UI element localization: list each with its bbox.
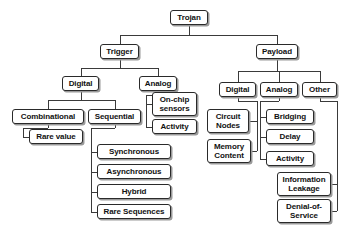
node-label-pay-digital: Digital xyxy=(222,85,253,95)
node-sequential: Sequential xyxy=(88,109,141,124)
node-trig-digital: Digital xyxy=(62,76,99,91)
node-label-pay-analog: Analog xyxy=(263,85,295,95)
node-label-trig-digital: Digital xyxy=(65,79,96,89)
node-label-pay-activity: Activity xyxy=(269,154,311,164)
node-onchip: On-chip sensors xyxy=(152,92,197,116)
node-combinational: Combinational xyxy=(12,109,84,124)
node-hybrid: Hybrid xyxy=(97,184,171,199)
node-label-circuit-nodes: Circuit Nodes xyxy=(210,112,246,131)
node-asynchronous: Asynchronous xyxy=(97,164,171,179)
node-memory-content: Memory Content xyxy=(207,139,251,163)
node-trojan: Trojan xyxy=(170,10,208,25)
node-label-asynchronous: Asynchronous xyxy=(100,167,168,177)
node-label-delay: Delay xyxy=(269,132,311,142)
node-label-trojan: Trojan xyxy=(173,13,205,23)
node-label-pay-other: Other xyxy=(305,85,334,95)
node-bridging: Bridging xyxy=(266,109,314,124)
node-denial-service: Denial-of- Service xyxy=(277,199,331,223)
node-label-trigger: Trigger xyxy=(103,47,136,57)
node-payload: Payload xyxy=(256,44,298,59)
node-synchronous: Synchronous xyxy=(97,144,171,159)
node-label-info-leakage: Information Leakage xyxy=(280,175,328,194)
node-label-memory-content: Memory Content xyxy=(210,142,248,161)
node-rare-value: Rare value xyxy=(29,129,83,144)
node-delay: Delay xyxy=(266,129,314,144)
node-pay-analog: Analog xyxy=(260,82,298,97)
node-label-onchip: On-chip sensors xyxy=(155,95,194,114)
node-pay-activity: Activity xyxy=(266,151,314,166)
node-label-bridging: Bridging xyxy=(269,112,311,122)
node-label-synchronous: Synchronous xyxy=(100,147,168,157)
node-info-leakage: Information Leakage xyxy=(277,172,331,196)
node-label-combinational: Combinational xyxy=(15,112,81,122)
trojan-taxonomy-diagram: TrojanTriggerPayloadDigitalAnalogDigital… xyxy=(0,0,351,236)
node-rare-sequences: Rare Sequences xyxy=(97,204,171,219)
node-label-trig-analog: Analog xyxy=(142,79,174,89)
node-label-rare-value: Rare value xyxy=(32,132,80,142)
node-trigger: Trigger xyxy=(100,44,139,59)
node-pay-digital: Digital xyxy=(219,82,256,97)
node-label-rare-sequences: Rare Sequences xyxy=(100,207,168,217)
node-label-sequential: Sequential xyxy=(91,112,138,122)
node-trig-analog: Analog xyxy=(139,76,177,91)
node-trig-activity: Activity xyxy=(152,119,197,134)
node-circuit-nodes: Circuit Nodes xyxy=(207,109,249,133)
node-pay-other: Other xyxy=(302,82,337,97)
node-label-denial-service: Denial-of- Service xyxy=(280,202,328,221)
node-label-hybrid: Hybrid xyxy=(100,187,168,197)
node-label-trig-activity: Activity xyxy=(155,122,194,132)
node-label-payload: Payload xyxy=(259,47,295,57)
